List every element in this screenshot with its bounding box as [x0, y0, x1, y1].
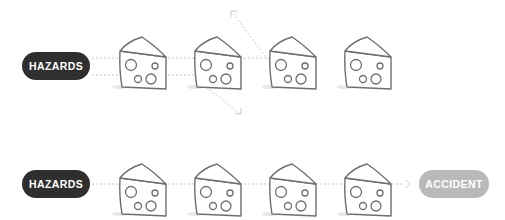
top-hazards-pill: HAZARDS [22, 52, 90, 80]
bottom-hazards-pill: HAZARDS [22, 170, 90, 198]
bottom-cheese-slices [112, 164, 391, 216]
path-arrowhead [406, 180, 410, 188]
cheese-slice-icon [187, 164, 241, 216]
cheese-slice-icon [262, 164, 316, 216]
cheese-slice-icon [337, 37, 391, 89]
cheese-slice-icon [262, 37, 316, 89]
cheese-slice-icon [112, 37, 166, 89]
top-cheese-slices [112, 37, 391, 89]
cheese-slice-icon [112, 164, 166, 216]
accident-pill: ACCIDENT [419, 170, 489, 198]
cheese-slice-icon [187, 37, 241, 89]
top-hazard-paths [92, 12, 270, 114]
cheese-slice-icon [337, 164, 391, 216]
